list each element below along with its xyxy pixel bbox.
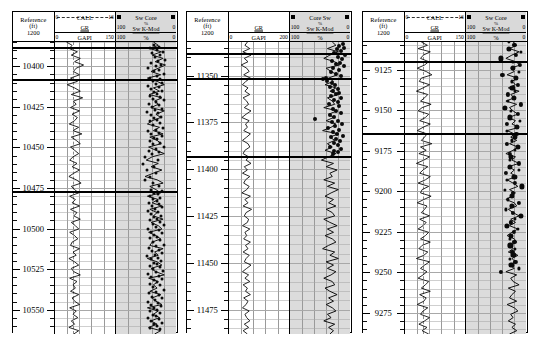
- depth-tick: [13, 123, 17, 124]
- core-sw-point: [152, 307, 155, 310]
- core-sw-point: [151, 222, 154, 225]
- core-sw-point: [148, 219, 151, 222]
- core-sw-point: [325, 79, 329, 83]
- depth-tick: [400, 207, 404, 208]
- core-sw-point: [160, 321, 163, 324]
- depth-tick: [363, 280, 367, 281]
- core-sw-point: [149, 195, 152, 198]
- core-sw-point: [336, 150, 340, 154]
- curve2-scale-row: 0GAPI200: [229, 32, 289, 41]
- depth-tick: [13, 172, 17, 173]
- depth-label: 10425: [13, 102, 54, 112]
- core-sw-point: [154, 128, 157, 131]
- curve4-header: 1000%Sw K-Mod: [290, 22, 350, 32]
- reference-value: 1200: [27, 30, 40, 36]
- gr-curve: [229, 42, 290, 334]
- depth-tick: [400, 94, 404, 95]
- sw-kmod-label: Sw K-Mod: [116, 27, 176, 32]
- core-sw-point: [154, 298, 157, 301]
- depth-tick: [363, 289, 367, 290]
- depth-tick: [363, 45, 367, 46]
- panel-3: Reference(ft)1200016CALLGR0GAPI150Sw Cor…: [362, 11, 528, 333]
- marker-bar: [187, 53, 351, 55]
- core-sw-point: [159, 53, 162, 56]
- marker-bar: [363, 133, 527, 135]
- core-sw-point: [162, 73, 165, 76]
- core-sw-point: [161, 206, 164, 209]
- depth-tick: [13, 164, 17, 165]
- depth-tick: [187, 132, 191, 133]
- gr-track-header: 016CALLGR0GAPI150: [405, 12, 466, 41]
- core-sw-point: [150, 230, 153, 233]
- core-sw-point: [155, 290, 158, 293]
- depth-tick: [50, 302, 54, 303]
- core-sw-point: [150, 276, 153, 279]
- depth-tick: [224, 104, 228, 105]
- depth-tick: [187, 235, 191, 236]
- depth-tick: [224, 188, 228, 189]
- core-sw-point: [143, 178, 146, 181]
- curve1-header: [229, 12, 289, 22]
- depth-tick: [50, 172, 54, 173]
- reference-stack: Reference(ft)1200: [187, 12, 228, 41]
- curve4-header: 1000%Sw K-Mod: [466, 22, 526, 32]
- curve2-name-row: GR: [229, 22, 289, 32]
- core-sw-point: [161, 81, 164, 84]
- depth-tick: [13, 196, 17, 197]
- core-sw-point: [148, 120, 151, 123]
- core-sw-point: [146, 169, 149, 172]
- depth-track: 10400104251045010475105001052510550: [13, 42, 55, 334]
- depth-tick: [363, 86, 367, 87]
- depth-tick: [13, 220, 17, 221]
- depth-track: 113501137511400114251145011475: [187, 42, 229, 334]
- sw-kmod-unit: %: [116, 34, 176, 41]
- depth-label: 11400: [187, 164, 228, 174]
- depth-tick: [224, 132, 228, 133]
- core-sw-point: [155, 172, 158, 175]
- core-sw-point: [156, 49, 159, 52]
- depth-tick: [13, 277, 17, 278]
- core-sw-point: [148, 175, 151, 178]
- depth-tick: [50, 83, 54, 84]
- depth-tick: [363, 248, 367, 249]
- curve4-header: 1000%Sw K-Mod: [116, 22, 176, 32]
- depth-tick: [13, 58, 17, 59]
- core-sw-point: [151, 295, 154, 298]
- depth-tick: [224, 57, 228, 58]
- depth-tick: [400, 297, 404, 298]
- curve4-scale-row: 100%0: [116, 32, 176, 41]
- depth-tick: [363, 264, 367, 265]
- core-sw-point: [152, 97, 155, 100]
- core-sw-point: [158, 221, 161, 224]
- core-sw-point: [146, 209, 149, 212]
- sw-track-header: Core Sw1000%Sw K-Mod100%0: [290, 12, 350, 41]
- depth-tick: [400, 167, 404, 168]
- depth-tick: [13, 50, 17, 51]
- sw-kmod-stack: %Sw K-Mod: [116, 22, 176, 31]
- gr-max: 150: [105, 34, 113, 40]
- core-sw-point: [156, 138, 159, 141]
- depth-tick: [187, 254, 191, 255]
- depth-label: 9250: [363, 267, 404, 277]
- sw-kmod-max: 0: [346, 34, 349, 40]
- core-sw-point: [160, 277, 163, 280]
- depth-tick: [50, 285, 54, 286]
- depth-tick: [224, 94, 228, 95]
- core-sw-point: [146, 300, 149, 303]
- core-sw-point: [155, 148, 158, 151]
- depth-tick: [400, 78, 404, 79]
- reference-stack: Reference(ft)1200: [363, 12, 404, 41]
- depth-tick: [13, 237, 17, 238]
- core-sw-point: [161, 297, 164, 300]
- gr-curve: [55, 42, 116, 334]
- depth-tick: [363, 216, 367, 217]
- reference-header: Reference(ft)1200: [363, 12, 405, 41]
- core-sw-point: [326, 126, 330, 130]
- depth-tick: [13, 326, 17, 327]
- depth-tick: [50, 293, 54, 294]
- depth-label: 10500: [13, 224, 54, 234]
- depth-tick: [224, 319, 228, 320]
- core-sw-point: [158, 328, 161, 331]
- core-sw-point: [147, 272, 150, 275]
- depth-tick: [400, 240, 404, 241]
